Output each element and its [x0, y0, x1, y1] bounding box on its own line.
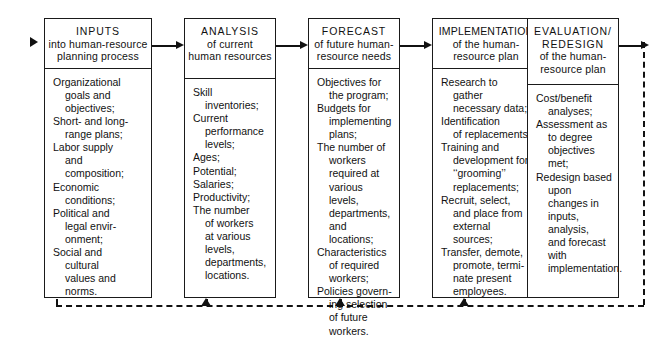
stage-subtitle-implementation-2: resource plan — [436, 50, 536, 63]
entry-line: Organizational — [53, 76, 121, 88]
list-item: Identification of replacements; — [441, 115, 533, 141]
entry-line: required at — [317, 167, 393, 180]
list-item: Policies govern- ing selection of future… — [317, 285, 393, 337]
entry-line: objectives; — [53, 102, 145, 115]
entry-line: departments, — [317, 207, 393, 220]
entry-line: Political and — [53, 207, 110, 219]
entry-line: Ages; — [193, 151, 220, 163]
connector-evaluation-to-feedback — [619, 41, 649, 50]
stage-body-evaluation: Cost/benefit analyses; Assessment as to … — [528, 85, 618, 297]
entry-line: implementing — [317, 115, 393, 128]
stage-box-analysis: ANALYSIS of current human resources Skil… — [184, 18, 276, 298]
entry-line: workers — [317, 154, 393, 167]
entry-line: various levels, — [317, 181, 393, 207]
entry-line: with — [536, 249, 612, 262]
entry-line: composition; — [53, 167, 145, 180]
entry-line: locations. — [193, 269, 269, 282]
entry-line: gather — [441, 89, 533, 102]
entry-line: Objectives for — [317, 76, 381, 88]
entry-line: upon changes in — [536, 184, 612, 210]
entry-line: workers; — [317, 272, 393, 285]
entry-line: and place from — [441, 207, 533, 220]
feedback-arrow-to-forecast — [335, 298, 345, 306]
stage-header-analysis: ANALYSIS of current human resources — [185, 19, 275, 79]
stage-header-inputs: INPUTS into human-resource planning proc… — [45, 19, 151, 69]
entry-line: legal envir- — [53, 220, 145, 233]
list-item: Labor supply and composition; — [53, 141, 145, 180]
entry-line: replacements; — [441, 181, 533, 194]
feedback-arrow-to-analysis — [201, 298, 211, 306]
entry-line: of required — [317, 259, 393, 272]
entry-line: Policies govern- — [317, 285, 392, 297]
entry-line: Salaries; — [193, 178, 234, 190]
entry-line: implementation. — [536, 262, 612, 275]
entry-line: norms. — [53, 285, 145, 298]
entry-line: nate present — [441, 272, 533, 285]
entry-line: conditions; — [53, 194, 145, 207]
entry-line: performance — [193, 125, 269, 138]
stage-body-analysis: Skill inventories; Current performance l… — [185, 79, 275, 297]
entry-line: plans; — [317, 128, 393, 141]
stage-box-evaluation: EVALUATION/ REDESIGN of the human- resou… — [527, 18, 619, 298]
feedback-arrow-to-implementation — [459, 298, 469, 306]
entry-line: The number — [193, 204, 250, 216]
connector-forecast-to-implementation — [400, 41, 432, 50]
stage-subtitle-inputs-1: into human-resource — [48, 38, 148, 51]
entry-line: Productivity; — [193, 191, 250, 203]
list-item: Ages; — [193, 151, 269, 164]
stage-subtitle-inputs-2: planning process — [48, 50, 148, 63]
entry-line: Assessment as — [536, 118, 607, 130]
list-item: Redesign based upon changes in inputs, a… — [536, 171, 612, 276]
entry-line: Transfer, demote, — [441, 246, 523, 258]
list-item: Transfer, demote, promote, termi- nate p… — [441, 246, 533, 298]
feedback-line-right — [643, 42, 645, 305]
list-item: Political and legal envir- onment; — [53, 207, 145, 246]
stage-box-inputs: INPUTS into human-resource planning proc… — [44, 18, 152, 298]
entry-line: levels; — [193, 138, 269, 151]
entry-line: the program; — [317, 89, 393, 102]
entry-line: Research to — [441, 76, 498, 88]
list-item: Potential; — [193, 165, 269, 178]
list-item: Skill inventories; — [193, 86, 269, 112]
entry-line: analyses; — [536, 105, 612, 118]
entry-line: and — [53, 154, 145, 167]
entry-line: necessary data; — [441, 102, 533, 115]
stage-header-forecast: FORECAST of future human- resource needs — [309, 19, 399, 69]
stage-header-implementation: IMPLEMENTATION of the human- resource pl… — [433, 19, 539, 69]
list-item: Budgets for implementing plans; — [317, 102, 393, 141]
entry-line: inventories; — [193, 99, 269, 112]
entry-line: to degree — [536, 131, 612, 144]
entry-line: of workers — [193, 217, 269, 230]
entry-line: Recruit, select, — [441, 194, 510, 206]
entry-line: range plans; — [53, 128, 145, 141]
entry-line: Potential; — [193, 165, 237, 177]
entry-line: goals and — [53, 89, 145, 102]
entry-line: Short- and long- — [53, 115, 128, 127]
entry-line: levels, — [193, 243, 269, 256]
entry-line: values and — [53, 272, 145, 285]
entry-line: inputs, analysis, — [536, 210, 612, 236]
entry-line: ing selection — [317, 298, 393, 311]
entry-line: The number of — [317, 141, 385, 153]
connector-analysis-to-forecast — [276, 41, 308, 50]
entry-line: Training and — [441, 141, 499, 153]
entry-line: Characteristics — [317, 246, 386, 258]
stage-body-implementation: Research to gather necessary data; Ident… — [433, 69, 539, 303]
list-item: Productivity; — [193, 191, 269, 204]
entry-line: employees. — [441, 285, 533, 298]
entry-line: Current — [193, 112, 228, 124]
stage-title-forecast: FORECAST — [312, 25, 396, 38]
entry-line: Skill — [193, 86, 212, 98]
entry-line: Social and — [53, 246, 102, 258]
entry-line: external — [441, 220, 533, 233]
list-item: The number of workers at various levels,… — [193, 204, 269, 283]
list-item: Economic conditions; — [53, 181, 145, 207]
stage-title-evaluation-2: REDESIGN — [531, 38, 615, 51]
entry-line: Budgets for — [317, 102, 371, 114]
connector-inputs-to-analysis — [152, 41, 184, 50]
list-item: Current performance levels; — [193, 112, 269, 151]
entry-line: objectives met; — [536, 144, 612, 170]
flowchart-diagram: INPUTS into human-resource planning proc… — [0, 0, 662, 342]
list-item: Recruit, select, and place from external… — [441, 194, 533, 246]
entry-line: onment; — [53, 233, 145, 246]
